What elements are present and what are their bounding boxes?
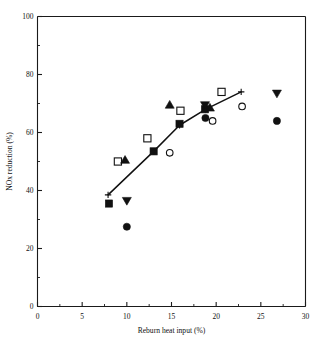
x-tick-label: 5 bbox=[80, 312, 84, 321]
y-tick-label: 40 bbox=[26, 186, 34, 195]
fitted-curve-path bbox=[108, 92, 241, 195]
axis-frame bbox=[38, 17, 306, 307]
y-tick-label: 0 bbox=[30, 302, 34, 311]
axis-ticks bbox=[38, 17, 306, 307]
axis-tick-labels: 051015202530020406080100 bbox=[22, 12, 309, 320]
data-markers bbox=[105, 88, 282, 230]
y-tick-label: 100 bbox=[22, 12, 34, 21]
x-axis-title: Reburn heat input (%) bbox=[138, 326, 206, 335]
marker-open-square bbox=[177, 107, 184, 114]
marker-filled-down-triangle bbox=[122, 197, 131, 205]
marker-filled-square bbox=[105, 200, 112, 207]
marker-filled-circle bbox=[273, 117, 280, 124]
x-tick-label: 15 bbox=[168, 312, 176, 321]
marker-filled-circle bbox=[202, 114, 209, 121]
marker-open-circle bbox=[209, 118, 216, 125]
marker-open-square bbox=[218, 88, 225, 95]
x-tick-label: 20 bbox=[212, 312, 220, 321]
y-tick-label: 80 bbox=[26, 70, 34, 79]
x-tick-label: 30 bbox=[302, 312, 310, 321]
x-tick-label: 25 bbox=[257, 312, 265, 321]
axis-titles: Reburn heat input (%)NOx reduction (%) bbox=[5, 132, 206, 335]
marker-filled-up-triangle bbox=[165, 100, 174, 108]
marker-filled-circle bbox=[123, 223, 130, 230]
marker-open-square bbox=[114, 158, 121, 165]
y-tick-label: 60 bbox=[26, 128, 34, 137]
chart-figure: 051015202530020406080100 Reburn heat inp… bbox=[0, 0, 318, 346]
y-axis-title: NOx reduction (%) bbox=[5, 132, 14, 191]
x-tick-label: 0 bbox=[36, 312, 40, 321]
marker-open-circle bbox=[239, 103, 246, 110]
marker-filled-down-triangle bbox=[272, 90, 281, 98]
y-tick-label: 20 bbox=[26, 244, 34, 253]
x-tick-label: 10 bbox=[123, 312, 131, 321]
plot-axes bbox=[38, 17, 306, 307]
marker-open-circle bbox=[166, 150, 173, 157]
marker-open-square bbox=[144, 135, 151, 142]
trend-line bbox=[108, 92, 241, 195]
scatter-plot: 051015202530020406080100 Reburn heat inp… bbox=[0, 0, 318, 346]
marker-plus bbox=[238, 89, 244, 95]
